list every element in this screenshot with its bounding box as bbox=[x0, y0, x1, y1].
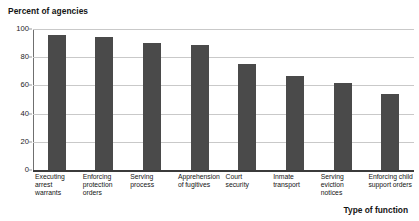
bar[interactable] bbox=[286, 76, 304, 170]
bar[interactable] bbox=[48, 35, 66, 170]
y-tick-label: 40 bbox=[21, 110, 29, 118]
x-tick-label: Enforcingprotectionorders bbox=[83, 173, 129, 198]
bar-slot bbox=[33, 29, 81, 170]
bar-slot bbox=[176, 29, 224, 170]
x-axis-baseline bbox=[33, 170, 414, 172]
bar-slot bbox=[271, 29, 319, 170]
x-axis-title: Type of function bbox=[343, 205, 408, 215]
x-tick-label: Apprehensionof fugitives bbox=[178, 173, 224, 189]
x-tick-label: Servingprocess bbox=[130, 173, 176, 189]
bar-slot bbox=[366, 29, 414, 170]
plot-area: 020406080100 bbox=[33, 29, 414, 170]
category-labels: ExecutingarrestwarrantsEnforcingprotecti… bbox=[33, 173, 414, 207]
y-tick-mark bbox=[29, 113, 32, 114]
y-axis-title: Percent of agencies bbox=[8, 6, 88, 16]
bar-slot bbox=[224, 29, 272, 170]
bar[interactable] bbox=[143, 43, 161, 170]
bar-slot bbox=[319, 29, 367, 170]
y-tick-mark bbox=[29, 29, 32, 30]
y-tick-label: 0 bbox=[25, 166, 29, 174]
x-tick-label: Courtsecurity bbox=[226, 173, 272, 189]
bar[interactable] bbox=[191, 45, 209, 170]
y-tick-mark bbox=[29, 57, 32, 58]
bar[interactable] bbox=[238, 64, 256, 170]
x-tick-label: Inmatetransport bbox=[273, 173, 319, 189]
x-tick-label: Servingevictionnotices bbox=[321, 173, 367, 198]
x-tick-label: Executingarrestwarrants bbox=[35, 173, 81, 198]
y-tick-label: 80 bbox=[21, 53, 29, 61]
y-tick-mark bbox=[29, 85, 32, 86]
bar-chart: Percent of agencies 020406080100 Executi… bbox=[0, 0, 419, 221]
bar[interactable] bbox=[334, 83, 352, 170]
y-tick-label: 20 bbox=[21, 138, 29, 146]
y-tick-label: 100 bbox=[16, 25, 29, 33]
y-tick-mark bbox=[29, 141, 32, 142]
y-tick-mark bbox=[29, 170, 32, 171]
bars-layer bbox=[33, 29, 414, 170]
bar-slot bbox=[128, 29, 176, 170]
y-tick-label: 60 bbox=[21, 82, 29, 90]
bar[interactable] bbox=[95, 37, 113, 170]
x-tick-label: Enforcing childsupport orders bbox=[368, 173, 414, 189]
bar[interactable] bbox=[381, 94, 399, 170]
bar-slot bbox=[81, 29, 129, 170]
